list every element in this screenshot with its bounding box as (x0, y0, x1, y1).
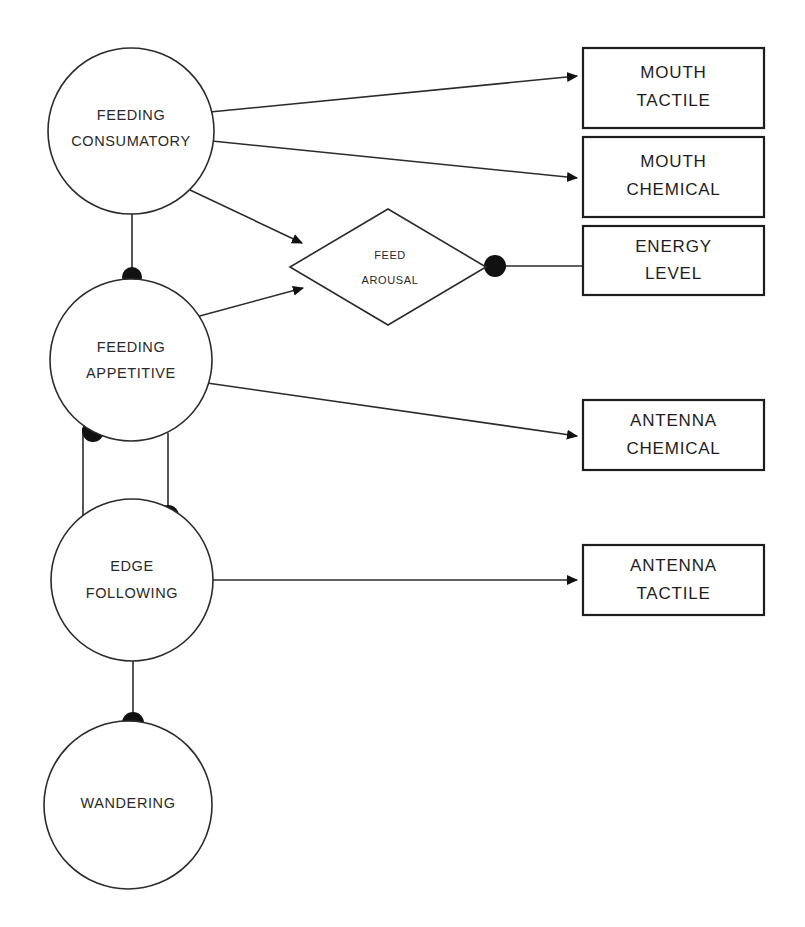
edge-following-label-line2: FOLLOWING (86, 585, 178, 601)
connection-appetitive-to-antenna-chemical (207, 383, 577, 436)
wandering-label-line1: WANDERING (80, 795, 175, 811)
mouth-chemical-label-line1: MOUTH (640, 152, 706, 171)
mouth-tactile-label-line1: MOUTH (640, 63, 706, 82)
behavior-network-diagram: FEEDING CONSUMATORY FEEDING APPETITIVE E… (0, 0, 805, 927)
mouth-chemical-rect[interactable] (583, 137, 764, 217)
antenna-chemical-label-line2: CHEMICAL (626, 439, 720, 458)
feeding-appetitive-label-line1: FEEDING (97, 339, 166, 355)
connection-appetitive-to-feed-arousal (196, 288, 303, 317)
box-antenna-chemical[interactable]: ANTENNA CHEMICAL (583, 400, 764, 470)
energy-level-rect[interactable] (583, 226, 764, 295)
mouth-chemical-label-line2: CHEMICAL (626, 180, 720, 199)
mouth-tactile-label-line2: TACTILE (636, 91, 710, 110)
antenna-tactile-label-line1: ANTENNA (630, 556, 717, 575)
mouth-tactile-rect[interactable] (583, 48, 764, 128)
antenna-chemical-label-line1: ANTENNA (630, 411, 717, 430)
feeding-consumatory-label-line1: FEEDING (97, 107, 166, 123)
feeding-appetitive-circle[interactable] (50, 279, 212, 441)
feeding-consumatory-label-line2: CONSUMATORY (71, 133, 190, 149)
diagram-canvas: FEEDING CONSUMATORY FEEDING APPETITIVE E… (0, 0, 805, 927)
node-feed-arousal[interactable]: FEED AROUSAL (290, 209, 486, 325)
feeding-appetitive-label-line2: APPETITIVE (86, 365, 176, 381)
connection-consumatory-to-feed-arousal (190, 190, 302, 243)
node-feeding-consumatory[interactable]: FEEDING CONSUMATORY (48, 48, 214, 214)
box-mouth-tactile[interactable]: MOUTH TACTILE (583, 48, 764, 128)
feed-arousal-label-line2: AROUSAL (362, 274, 419, 286)
box-antenna-tactile[interactable]: ANTENNA TACTILE (583, 545, 764, 615)
feed-arousal-label-line1: FEED (374, 249, 406, 261)
node-edge-following[interactable]: EDGE FOLLOWING (51, 499, 213, 661)
feed-arousal-diamond[interactable] (290, 209, 486, 325)
node-feeding-appetitive[interactable]: FEEDING APPETITIVE (50, 279, 212, 441)
behavior-node-layer: FEEDING CONSUMATORY FEEDING APPETITIVE E… (44, 48, 214, 889)
edge-following-circle[interactable] (51, 499, 213, 661)
connection-consumatory-to-mouth-tactile (210, 76, 577, 112)
sensor-box-layer: MOUTH TACTILE MOUTH CHEMICAL ENERGY LEVE… (583, 48, 764, 615)
antenna-tactile-label-line2: TACTILE (636, 584, 710, 603)
box-mouth-chemical[interactable]: MOUTH CHEMICAL (583, 137, 764, 217)
suppression-dot-feed-arousal-energy (484, 255, 506, 277)
edge-following-label-line1: EDGE (110, 558, 154, 574)
box-energy-level[interactable]: ENERGY LEVEL (583, 226, 764, 295)
energy-level-label-line1: ENERGY (635, 237, 712, 256)
energy-level-label-line2: LEVEL (645, 264, 702, 283)
feeding-consumatory-circle[interactable] (48, 48, 214, 214)
connection-consumatory-to-mouth-chemical (212, 141, 577, 178)
node-wandering[interactable]: WANDERING (44, 721, 212, 889)
